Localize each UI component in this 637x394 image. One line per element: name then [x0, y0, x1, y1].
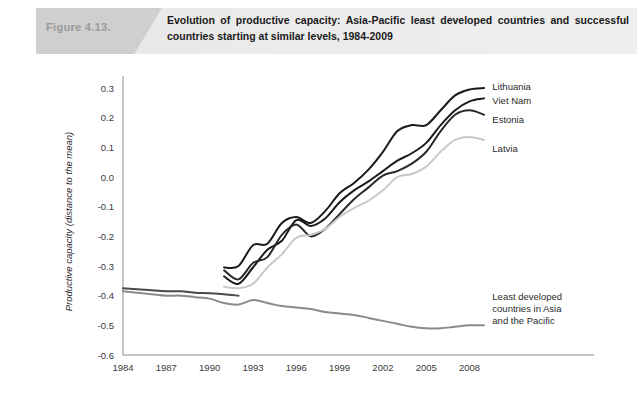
chart-figure: -0.6-0.5-0.4-0.3-0.2-0.10.00.10.20.3 198…: [0, 58, 637, 394]
x-axis-tick-labels: 198419871990199319961999200220052008: [112, 362, 480, 373]
x-tick-label: 2008: [459, 362, 480, 373]
figure-header: Figure 4.13. Evolution of productive cap…: [36, 8, 637, 54]
y-tick-label: -0.2: [98, 231, 114, 242]
series-line: [123, 288, 239, 295]
series-lines: [123, 88, 484, 328]
series-label: Estonia: [492, 114, 524, 125]
y-tick-label: -0.4: [98, 290, 114, 301]
x-tick-label: 2002: [372, 362, 393, 373]
series-label: Viet Nam: [492, 95, 531, 106]
x-tick-label: 1990: [199, 362, 220, 373]
x-tick-label: 1984: [112, 362, 133, 373]
x-tick-label: 1999: [329, 362, 350, 373]
y-tick-label: 0.2: [101, 112, 114, 123]
y-axis-title-text: Productive capacity (distance to the mea…: [63, 132, 74, 312]
series-label-ldc: countries in Asia: [492, 303, 562, 314]
y-tick-label: -0.6: [98, 350, 114, 361]
series-label: Latvia: [492, 143, 518, 154]
series-line: [224, 137, 484, 288]
figure-title: Evolution of productive capacity: Asia-P…: [167, 13, 629, 44]
y-axis-tick-labels: -0.6-0.5-0.4-0.3-0.2-0.10.00.10.20.3: [98, 83, 114, 361]
y-tick-label: -0.5: [98, 320, 114, 331]
x-tick-label: 2005: [416, 362, 437, 373]
y-tick-label: 0.1: [101, 142, 114, 153]
figure-number-label: Figure 4.13.: [46, 21, 156, 33]
y-tick-label: 0.3: [101, 83, 114, 94]
y-tick-label: 0.0: [101, 172, 114, 183]
x-tick-label: 1996: [286, 362, 307, 373]
series-label-ldc: and the Pacific: [492, 315, 555, 326]
y-tick-label: -0.3: [98, 261, 114, 272]
series-line: [123, 291, 484, 328]
y-tick-label: -0.1: [98, 201, 114, 212]
y-axis-title: Productive capacity (distance to the mea…: [63, 132, 74, 312]
series-label-ldc: Least developed: [492, 291, 562, 302]
x-tick-label: 1987: [156, 362, 177, 373]
x-tick-label: 1993: [242, 362, 263, 373]
series-line: [224, 88, 484, 268]
line-chart: -0.6-0.5-0.4-0.3-0.2-0.10.00.10.20.3 198…: [0, 58, 637, 394]
series-labels: LithuaniaViet NamEstoniaLatviaLeast deve…: [492, 81, 562, 326]
series-label: Lithuania: [492, 81, 531, 92]
